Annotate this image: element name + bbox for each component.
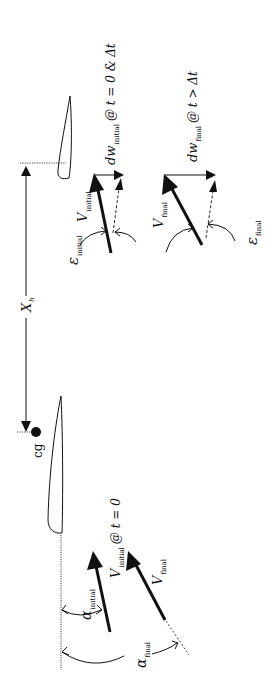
- arrow-head-icon: [21, 421, 31, 432]
- alpha-final-label: αfinal: [133, 641, 152, 668]
- wing-v-final-vector: [126, 551, 189, 655]
- arrow-head-icon: [206, 170, 216, 180]
- tail-initial-triangle: [89, 170, 124, 253]
- v-initial-tail-label: Vinitial: [75, 190, 93, 222]
- cg-label-text: cg: [31, 443, 45, 458]
- tail-final-triangle: [162, 170, 217, 245]
- v-final-tail-label: Vfinal: [151, 201, 169, 228]
- arrow-head-icon: [209, 180, 217, 192]
- alpha-initial-label: αinitial: [78, 588, 97, 620]
- arrow-head-icon: [89, 173, 104, 193]
- alpha-final-arc: [62, 641, 178, 663]
- arrow-head-icon: [87, 551, 103, 570]
- arrow-head-icon: [115, 178, 123, 190]
- eps-initial-label: εinitial: [64, 235, 84, 265]
- arrow-head-icon: [162, 174, 178, 195]
- tail-airfoil: [20, 96, 71, 179]
- v-initial-wing-label: Vinitial@ t = 0: [108, 498, 126, 578]
- downwash-diagram: Xh cg αinitial αfi: [0, 0, 274, 699]
- arrow-head-icon: [21, 166, 31, 176]
- eps-final-label: εfinal: [243, 220, 263, 245]
- eps-final-arcs: [166, 220, 235, 252]
- dw-final-label: dwfinal@ t > Δt: [185, 71, 203, 162]
- arrow-head-icon: [114, 170, 124, 180]
- dw-initial-label: dwinitial@ t = 0 & Δt: [103, 43, 121, 165]
- wing-airfoil: cg: [17, 396, 63, 533]
- tail-arm-label: Xh: [19, 297, 36, 313]
- tail-arm-dimension: Xh: [19, 166, 36, 432]
- v-final-wing-label: Vfinal: [150, 558, 168, 585]
- cg-dot-icon: [31, 427, 41, 437]
